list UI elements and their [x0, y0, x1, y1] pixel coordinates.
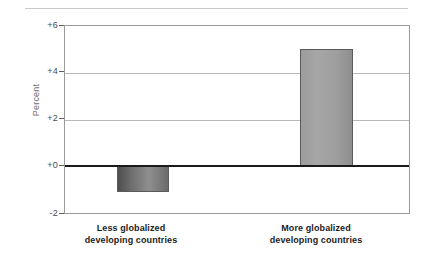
y-tick-label-6: +6 — [34, 20, 58, 30]
y-tick-label-minus-2: -2 — [34, 208, 58, 218]
bar-chart-figure: Percent +6 +4 +2 +0 -2 Less globalized d… — [0, 0, 433, 259]
bar-less-globalized — [117, 166, 169, 192]
category-label-less-line2: developing countries — [78, 234, 184, 246]
y-tick-label-0: +0 — [34, 160, 58, 170]
plot-area — [64, 25, 410, 214]
y-tick-label-4: +4 — [34, 66, 58, 76]
y-tick-label-2: +2 — [34, 113, 58, 123]
gridline-4 — [65, 73, 409, 74]
category-label-more-line2: developing countries — [263, 234, 369, 246]
category-label-more-globalized: More globalized developing countries — [263, 222, 369, 246]
top-separator-rule — [25, 8, 408, 9]
category-label-less-line1: Less globalized — [78, 222, 184, 234]
category-label-less-globalized: Less globalized developing countries — [78, 222, 184, 246]
category-label-more-line1: More globalized — [263, 222, 369, 234]
bar-more-globalized — [300, 49, 353, 166]
zero-baseline — [65, 165, 409, 167]
gridline-2 — [65, 120, 409, 121]
